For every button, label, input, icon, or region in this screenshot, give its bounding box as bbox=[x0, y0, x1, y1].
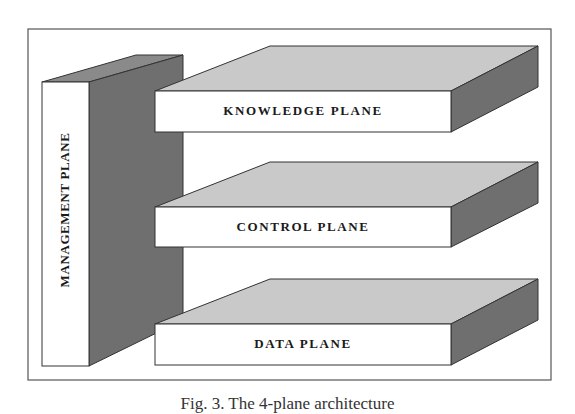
knowledge-plane-block bbox=[155, 46, 538, 132]
management-plane-label: MANAGEMENT PLANE bbox=[57, 133, 73, 288]
data-plane-label: DATA PLANE bbox=[155, 336, 451, 352]
data-plane-block bbox=[155, 279, 538, 365]
control-plane-label: CONTROL PLANE bbox=[155, 219, 451, 235]
knowledge-plane-label: KNOWLEDGE PLANE bbox=[155, 103, 451, 119]
figure-caption: Fig. 3. The 4-plane architecture bbox=[0, 394, 575, 414]
